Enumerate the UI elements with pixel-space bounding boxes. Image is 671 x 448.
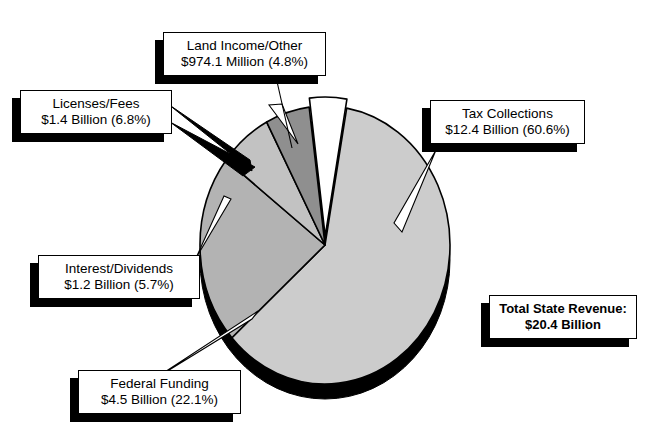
pointer-licenses-fees-2: [168, 104, 252, 171]
callout-federal-funding-title: Federal Funding: [110, 376, 208, 392]
callout-land-income[interactable]: Land Income/Other $974.1 Million (4.8%): [163, 32, 326, 76]
pie-slices-group: [200, 97, 450, 384]
pie-chart-figure: Land Income/Other $974.1 Million (4.8%) …: [0, 0, 671, 448]
callout-tax-collections[interactable]: Tax Collections $12.4 Billion (60.6%): [430, 100, 585, 144]
callout-licenses-fees-title: Licenses/Fees: [52, 96, 139, 112]
callout-tax-collections-value: $12.4 Billion (60.6%): [445, 122, 570, 138]
callout-licenses-fees[interactable]: Licenses/Fees $1.4 Billion (6.8%): [20, 90, 172, 134]
callout-federal-funding[interactable]: Federal Funding $4.5 Billion (22.1%): [78, 370, 241, 414]
callout-federal-funding-value: $4.5 Billion (22.1%): [101, 392, 218, 408]
callout-interest-dividends-value: $1.2 Billion (5.7%): [64, 277, 174, 293]
callout-land-income-value: $974.1 Million (4.8%): [181, 54, 308, 70]
callout-interest-dividends-title: Interest/Dividends: [65, 261, 173, 277]
callout-licenses-fees-value: $1.4 Billion (6.8%): [41, 112, 151, 128]
callout-land-income-title: Land Income/Other: [187, 38, 303, 54]
callout-tax-collections-title: Tax Collections: [462, 106, 553, 122]
callout-total-revenue: Total State Revenue: $20.4 Billion: [489, 295, 637, 339]
callout-interest-dividends[interactable]: Interest/Dividends $1.2 Billion (5.7%): [38, 255, 200, 299]
total-revenue-value: $20.4 Billion: [525, 317, 601, 333]
total-revenue-label: Total State Revenue:: [499, 301, 627, 317]
